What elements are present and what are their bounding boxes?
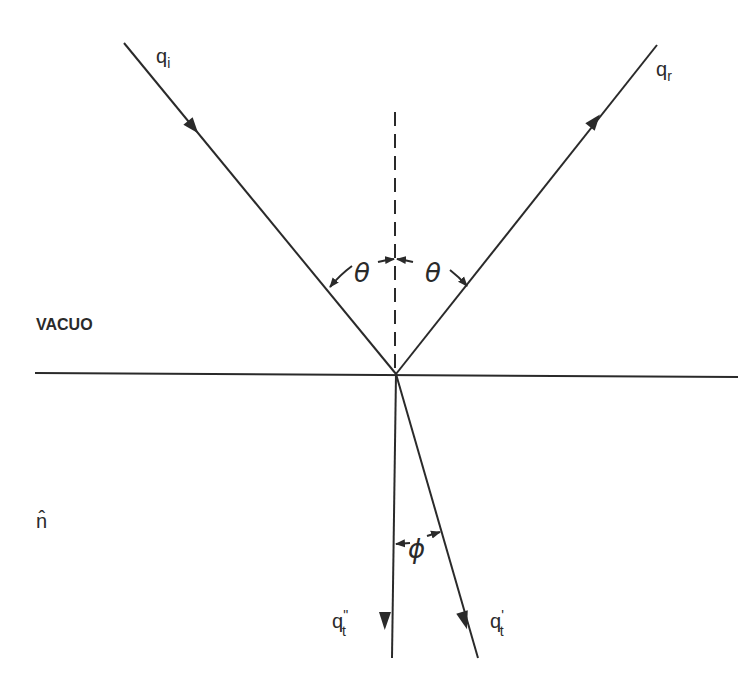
reflected-ray-label: qr: [656, 58, 672, 84]
transmitted-double-prime-ray: [379, 374, 396, 658]
incident-ray-label: qi: [156, 45, 170, 71]
transmitted-double-prime-label: q"t: [332, 607, 348, 639]
transmitted-double-prime-arrow-icon: [379, 612, 391, 630]
reflected-ray: [396, 45, 657, 374]
transmitted-prime-label: q't: [490, 607, 504, 639]
refraction-diagram: qi qr θ θ VACUO n̂ ϕ q"t q't: [0, 0, 742, 689]
theta-left-label: θ: [354, 258, 370, 288]
theta-right-label: θ: [425, 258, 441, 288]
refractive-index-label: n̂: [36, 510, 47, 532]
phi-label: ϕ: [408, 534, 425, 564]
transmitted-prime-ray: [396, 374, 478, 658]
incident-ray: [124, 43, 396, 374]
vacuum-region-label: VACUO: [36, 316, 93, 333]
interface-line: [35, 373, 738, 377]
